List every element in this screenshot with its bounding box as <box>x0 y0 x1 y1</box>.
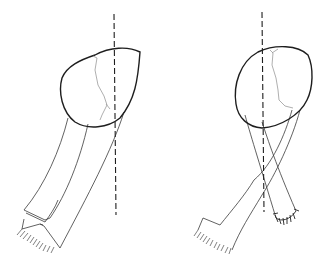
diagram-svg <box>0 0 327 261</box>
left-reference-axis <box>114 14 116 215</box>
right-reference-axis <box>262 12 264 212</box>
right-bone-head <box>235 47 312 128</box>
left-fracture-line <box>93 56 107 120</box>
right-frayed-end <box>194 230 231 254</box>
left-bone-head <box>61 48 140 127</box>
right-suture-line <box>273 209 299 225</box>
left-panel <box>17 14 140 253</box>
left-graft-strip <box>22 112 124 248</box>
right-graft-limbs <box>198 110 300 250</box>
diagram-canvas <box>0 0 327 261</box>
right-panel <box>194 12 312 254</box>
right-fracture-line <box>270 50 293 108</box>
